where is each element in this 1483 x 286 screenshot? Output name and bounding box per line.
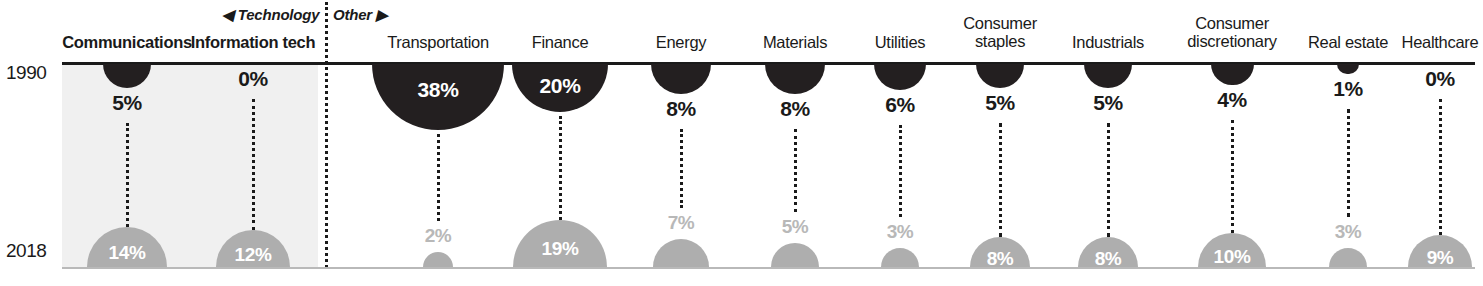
- semicircle-1990-materials: [765, 64, 826, 94]
- connector-finance: [559, 116, 562, 221]
- value-2018-real-estate: 3%: [1288, 221, 1408, 243]
- value-1990-energy: 8%: [621, 97, 741, 121]
- year-label-1990: 1990: [6, 62, 46, 84]
- value-2018-communications: 14%: [67, 242, 187, 264]
- semicircle-1990-energy: [651, 64, 712, 94]
- semicircle-2018-transportation: [423, 252, 453, 267]
- value-1990-consumer-discretionary: 4%: [1172, 88, 1292, 112]
- connector-consumer-discretionary: [1231, 120, 1234, 233]
- connector-communications: [126, 123, 129, 227]
- semicircle-2018-energy: [653, 239, 710, 267]
- value-1990-healthcare: 0%: [1380, 67, 1483, 91]
- column-header-healthcare: Healthcare: [1320, 33, 1483, 51]
- value-2018-transportation: 2%: [378, 225, 498, 247]
- value-1990-communications: 5%: [67, 91, 187, 115]
- value-2018-finance: 19%: [500, 238, 620, 260]
- value-2018-energy: 7%: [621, 212, 741, 234]
- technology-label-text: Technology: [238, 6, 320, 23]
- connector-utilities: [899, 125, 902, 218]
- value-2018-materials: 5%: [735, 216, 855, 238]
- year-label-2018: 2018: [6, 240, 46, 262]
- connector-energy: [680, 129, 683, 208]
- semicircle-1990-real-estate: [1337, 64, 1359, 75]
- value-2018-consumer-staples: 8%: [940, 248, 1060, 270]
- value-1990-transportation: 38%: [378, 78, 498, 102]
- value-2018-consumer-discretionary: 10%: [1172, 246, 1292, 268]
- semicircle-1990-consumer-staples: [976, 64, 1024, 88]
- value-1990-industrials: 5%: [1048, 91, 1168, 115]
- semicircle-1990-consumer-discretionary: [1211, 64, 1254, 86]
- connector-materials: [794, 129, 797, 212]
- column-header-line1: Consumer: [880, 14, 1120, 32]
- value-1990-materials: 8%: [735, 97, 855, 121]
- value-1990-consumer-staples: 5%: [940, 91, 1060, 115]
- technology-arrow-icon: ◀: [222, 6, 234, 23]
- connector-healthcare: [1439, 99, 1442, 235]
- other-label-text: Other: [333, 6, 372, 23]
- column-header-line1: Consumer: [1112, 14, 1352, 32]
- value-1990-finance: 20%: [500, 74, 620, 98]
- other-arrow-icon: ▶: [376, 6, 388, 23]
- semicircle-2018-utilities: [881, 248, 918, 267]
- value-2018-information-tech: 12%: [193, 244, 313, 266]
- semicircle-1990-utilities: [874, 64, 927, 90]
- connector-information-tech: [252, 99, 255, 230]
- value-2018-utilities: 3%: [840, 221, 960, 243]
- semicircle-1990-industrials: [1084, 64, 1132, 88]
- chart-canvas: ◀ Technology Other ▶ 1990 2018 Communica…: [0, 0, 1483, 286]
- semicircle-2018-materials: [771, 243, 819, 267]
- group-label-technology: ◀ Technology: [222, 6, 319, 24]
- semicircle-2018-real-estate: [1329, 248, 1366, 267]
- value-2018-industrials: 8%: [1048, 248, 1168, 270]
- value-1990-information-tech: 0%: [193, 67, 313, 91]
- connector-industrials: [1107, 123, 1110, 237]
- connector-real-estate: [1347, 109, 1350, 217]
- connector-consumer-staples: [999, 123, 1002, 237]
- connector-transportation: [437, 134, 440, 221]
- group-label-other: Other ▶: [333, 6, 388, 24]
- column-header-line1: Healthcare: [1320, 33, 1483, 51]
- value-2018-healthcare: 9%: [1380, 247, 1483, 269]
